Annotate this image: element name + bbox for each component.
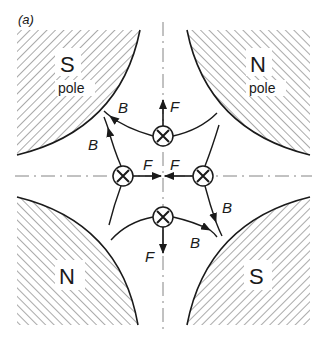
panel-label: (a) <box>18 12 34 27</box>
pole-letter: N <box>59 264 75 289</box>
pole-sub: pole <box>58 80 85 96</box>
pole-bottom-right: S <box>187 197 310 325</box>
pole-top-right: N pole <box>187 30 310 155</box>
force-arrows <box>133 100 193 253</box>
pole-letter: N <box>250 52 266 77</box>
pole-top-left: S pole <box>17 30 140 155</box>
pole-letter: S <box>60 52 75 77</box>
conductor-left <box>113 166 133 186</box>
force-label: F <box>170 156 180 173</box>
conductor-top <box>153 126 173 146</box>
field-label: B <box>88 136 98 153</box>
quadrupole-force-diagram: (a) S pole N pole N S <box>0 0 327 351</box>
force-label: F <box>145 248 155 265</box>
conductor-bottom <box>153 207 173 227</box>
force-label: F <box>170 98 180 115</box>
pole-letter: S <box>249 264 264 289</box>
pole-sub: pole <box>249 80 276 96</box>
force-label: F <box>143 156 153 173</box>
field-label: B <box>222 199 232 216</box>
field-label: B <box>118 99 128 116</box>
conductor-right <box>193 166 213 186</box>
field-label: B <box>190 234 200 251</box>
pole-bottom-left: N <box>17 197 138 325</box>
